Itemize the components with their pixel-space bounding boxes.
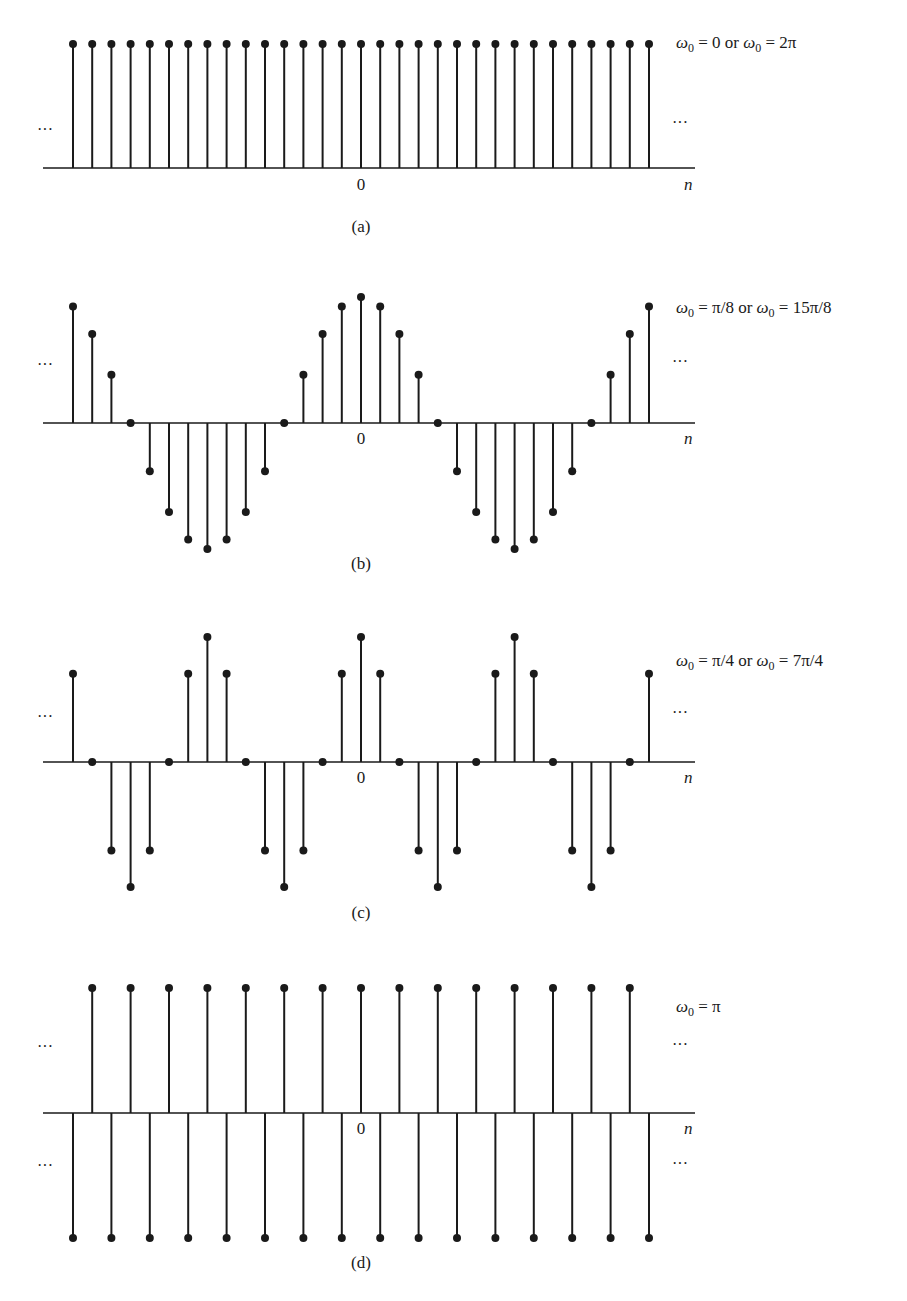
panel-a-title: ω0 = 0 or ω0 = 2π — [676, 33, 797, 55]
stem-marker-dot — [223, 535, 231, 543]
stem-marker-dot — [568, 1234, 576, 1242]
ellipsis-left: ··· — [37, 356, 53, 373]
stem-marker-dot — [491, 40, 499, 48]
n-axis-label: n — [684, 429, 693, 448]
stem-marker-dot — [299, 1234, 307, 1242]
stem-marker-dot — [242, 40, 250, 48]
stem-marker-dot — [146, 40, 154, 48]
stem-marker-dot — [127, 984, 135, 992]
stem-marker-dot — [107, 846, 115, 854]
n-axis-label: n — [684, 175, 693, 194]
origin-tick-label: 0 — [357, 1119, 366, 1138]
stem-marker-dot — [223, 670, 231, 678]
stem-marker-dot — [203, 40, 211, 48]
panel-b-title: ω0 = π/8 or ω0 = 15π/8 — [676, 298, 832, 320]
stem-marker-dot — [568, 846, 576, 854]
stem-marker-dot — [587, 883, 595, 891]
stem-marker-dot — [203, 633, 211, 641]
stem-marker-dot — [472, 758, 480, 766]
stem-marker-dot — [491, 1234, 499, 1242]
stem-marker-dot — [261, 846, 269, 854]
stem-marker-dot — [242, 984, 250, 992]
stem-marker-dot — [88, 758, 96, 766]
stem-marker-dot — [453, 1234, 461, 1242]
stem-marker-dot — [357, 40, 365, 48]
stem-marker-dot — [357, 633, 365, 641]
n-axis-label: n — [684, 1119, 693, 1138]
stem-marker-dot — [511, 40, 519, 48]
panel-a-caption: (a) — [352, 217, 371, 236]
stem-marker-dot — [434, 883, 442, 891]
stem-marker-dot — [165, 508, 173, 516]
stem-marker-dot — [107, 1234, 115, 1242]
stem-marker-dot — [472, 40, 480, 48]
stem-marker-dot — [357, 293, 365, 301]
ellipsis-left: ··· — [37, 1157, 53, 1174]
stem-marker-dot — [395, 330, 403, 338]
stem-marker-dot — [376, 303, 384, 311]
stem-marker-dot — [280, 40, 288, 48]
stem-marker-dot — [107, 371, 115, 379]
stem-marker-dot — [184, 40, 192, 48]
stem-marker-dot — [530, 535, 538, 543]
stem-marker-dot — [184, 535, 192, 543]
stem-marker-dot — [299, 371, 307, 379]
stem-marker-dot — [165, 40, 173, 48]
stem-marker-dot — [587, 40, 595, 48]
stem-marker-dot — [626, 330, 634, 338]
panel-c-caption: (c) — [352, 903, 371, 922]
ellipsis-left: ··· — [37, 121, 53, 138]
stem-marker-dot — [127, 40, 135, 48]
stem-marker-dot — [69, 1234, 77, 1242]
stem-marker-dot — [530, 1234, 538, 1242]
stem-marker-dot — [549, 984, 557, 992]
stem-marker-dot — [568, 467, 576, 475]
stem-marker-dot — [69, 303, 77, 311]
ellipsis-right: ··· — [672, 114, 688, 131]
stem-marker-dot — [261, 40, 269, 48]
stem-marker-dot — [280, 419, 288, 427]
stem-marker-dot — [645, 40, 653, 48]
stem-marker-dot — [395, 40, 403, 48]
stem-marker-dot — [472, 508, 480, 516]
stem-marker-dot — [511, 633, 519, 641]
stem-marker-dot — [472, 984, 480, 992]
stem-marker-dot — [415, 1234, 423, 1242]
stem-marker-dot — [491, 535, 499, 543]
origin-tick-label: 0 — [357, 429, 366, 448]
stem-marker-dot — [203, 545, 211, 553]
ellipsis-left: ··· — [37, 708, 53, 725]
stem-marker-dot — [376, 1234, 384, 1242]
stem-marker-dot — [530, 670, 538, 678]
stem-marker-dot — [127, 419, 135, 427]
stem-marker-dot — [626, 984, 634, 992]
stem-marker-dot — [357, 984, 365, 992]
stem-marker-dot — [587, 419, 595, 427]
stem-marker-dot — [415, 846, 423, 854]
stem-marker-dot — [184, 670, 192, 678]
stem-marker-dot — [530, 40, 538, 48]
stem-marker-dot — [165, 758, 173, 766]
stem-marker-dot — [69, 40, 77, 48]
ellipsis-right: ··· — [672, 1036, 688, 1053]
stem-marker-dot — [549, 40, 557, 48]
panel-d-caption: (d) — [351, 1253, 371, 1272]
stem-marker-dot — [607, 846, 615, 854]
stem-marker-dot — [415, 40, 423, 48]
stem-marker-dot — [184, 1234, 192, 1242]
stem-marker-dot — [69, 670, 77, 678]
stem-marker-dot — [338, 670, 346, 678]
stem-marker-dot — [338, 303, 346, 311]
stem-marker-dot — [607, 40, 615, 48]
stem-marker-dot — [607, 371, 615, 379]
stem-marker-dot — [88, 984, 96, 992]
stem-marker-dot — [242, 508, 250, 516]
stem-marker-dot — [223, 1234, 231, 1242]
stem-marker-dot — [395, 758, 403, 766]
stem-marker-dot — [261, 1234, 269, 1242]
stem-marker-dot — [549, 758, 557, 766]
stem-plot-figure: ω0 = 0 or ω0 = 2π (a) 0n······ ω0 = π/8 … — [0, 0, 907, 1301]
stem-marker-dot — [319, 984, 327, 992]
stem-marker-dot — [319, 758, 327, 766]
stem-marker-dot — [165, 984, 173, 992]
